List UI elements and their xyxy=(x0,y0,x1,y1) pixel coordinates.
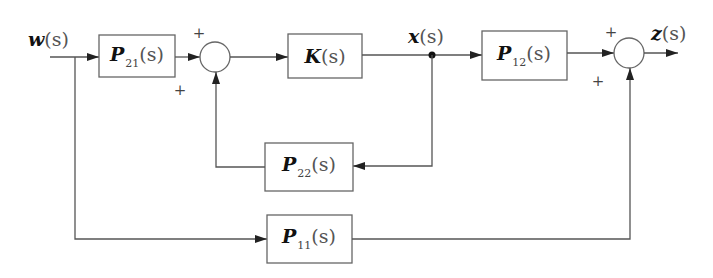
signal-symbol: z xyxy=(651,22,662,44)
signal-symbol: w xyxy=(28,28,44,50)
block-label-k: K(s) xyxy=(304,47,345,66)
block-subscript: 11 xyxy=(297,239,311,252)
wire-x-to-p22 xyxy=(353,55,432,170)
arrow-head-icon xyxy=(87,53,99,61)
signal-label-w: w(s) xyxy=(28,30,69,49)
sign-left-bottom: + xyxy=(174,83,187,98)
block-label-p22: P22(s) xyxy=(282,155,336,179)
signal-arg: (s) xyxy=(662,22,687,44)
arrow-head-icon xyxy=(602,49,614,57)
block-arg: (s) xyxy=(526,42,551,64)
block-label-p12: P12(s) xyxy=(497,44,551,68)
wire-p12-to-sum-right xyxy=(567,49,614,57)
block-symbol: P xyxy=(282,225,296,247)
arrow-head-icon xyxy=(626,68,634,80)
block-arg: (s) xyxy=(321,45,346,67)
wire-p22-to-sum-left xyxy=(212,72,265,167)
arrow-head-icon xyxy=(255,235,267,243)
arrow-head-icon xyxy=(666,49,678,57)
arrow-head-icon xyxy=(470,51,482,59)
arrow-head-icon xyxy=(188,53,200,61)
block-subscript: 22 xyxy=(297,167,311,180)
sign-right-bottom: + xyxy=(592,74,605,89)
arrow-head-icon xyxy=(353,162,365,170)
block-subscript: 12 xyxy=(512,56,526,69)
block-arg: (s) xyxy=(139,43,164,65)
wire-p21-to-sum-left xyxy=(175,53,200,61)
block-label-p21: P21(s) xyxy=(110,45,164,69)
wire-input-to-p11 xyxy=(75,57,267,243)
wire-p11-to-sum-right xyxy=(352,68,634,239)
arrow-head-icon xyxy=(276,53,288,61)
block-subscript: 21 xyxy=(125,57,139,70)
wire-output xyxy=(644,49,678,57)
block-symbol: P xyxy=(110,43,124,65)
signal-label-x: x(s) xyxy=(408,27,444,46)
block-arg: (s) xyxy=(311,153,336,175)
block-arg: (s) xyxy=(311,225,336,247)
wire-sum-left-to-k xyxy=(230,53,288,61)
signal-symbol: x xyxy=(408,25,419,47)
block-symbol: P xyxy=(497,42,511,64)
sign-left-top: + xyxy=(193,26,206,41)
arrow-head-icon xyxy=(212,72,220,84)
summing-junction-left xyxy=(200,42,230,72)
signal-arg: (s) xyxy=(44,28,69,50)
block-symbol: K xyxy=(304,45,321,67)
signal-label-z: z(s) xyxy=(651,24,686,43)
wire-k-to-x xyxy=(362,51,482,59)
block-symbol: P xyxy=(282,153,296,175)
sign-right-top: + xyxy=(605,25,618,40)
block-label-p11: P11(s) xyxy=(282,227,336,251)
signal-arg: (s) xyxy=(419,25,444,47)
summing-junction-right xyxy=(614,38,644,68)
block-diagram-canvas xyxy=(0,0,713,278)
